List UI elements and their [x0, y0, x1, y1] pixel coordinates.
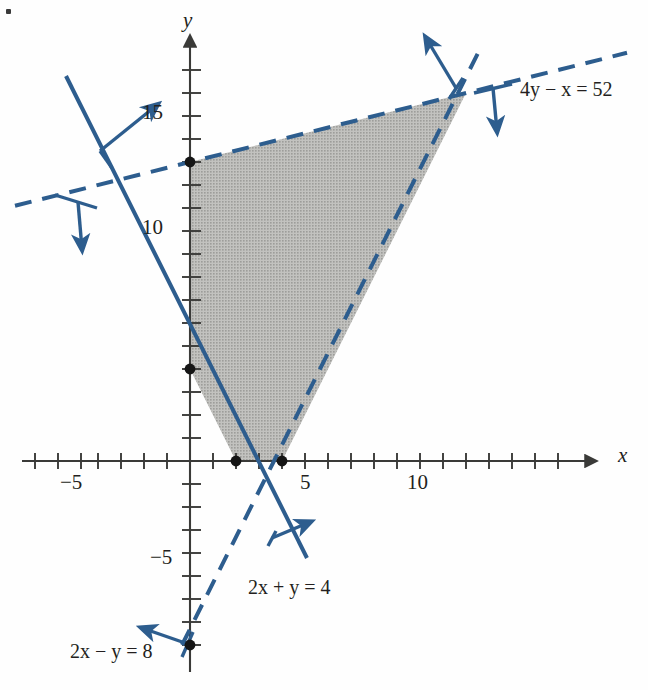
x-tick-label-10: 10: [407, 470, 428, 495]
vertex-point-0-13: [185, 157, 196, 168]
x-tick-label-5: 5: [300, 470, 311, 495]
equation-label-4y-minus-x-52: 4y − x = 52: [520, 78, 613, 101]
direction-arrow-4y-minus-x-52-left: [55, 195, 97, 249]
vertex-point-0-minus8: [185, 640, 196, 651]
direction-arrow-4y-minus-x-52-right: [474, 84, 512, 131]
y-tick-label-minus-5: −5: [150, 545, 172, 570]
x-axis-label: x: [618, 443, 627, 468]
y-tick-label-10: 10: [142, 215, 163, 240]
vertex-point-2-0: [231, 456, 242, 467]
equation-label-2x-plus-y-4: 2x + y = 4: [248, 576, 331, 599]
x-tick-label-minus-5: −5: [60, 470, 82, 495]
y-tick-label-15: 15: [142, 100, 163, 125]
equation-label-2x-minus-y-8: 2x − y = 8: [70, 640, 153, 663]
graph-figure: y x 15 10 −5 −5 5 10 4y − x = 52 2x + y …: [0, 0, 648, 690]
vertex-point-4-0: [277, 456, 288, 467]
y-axis-label: y: [183, 8, 192, 33]
vertex-point-0-4: [185, 364, 196, 375]
